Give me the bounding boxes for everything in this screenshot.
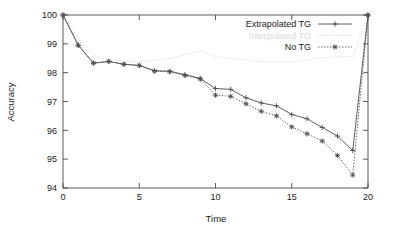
y-axis-title: Accuracy [5, 82, 16, 121]
x-tick-label: 15 [287, 192, 297, 202]
legend-label-interpolated-tg: Interpolated TG [249, 31, 311, 41]
legend-label-extrapolated-tg: Extrapolated TG [246, 19, 311, 29]
series-no-tg [60, 12, 370, 177]
plot-canvas: 949596979899100 05101520 Extrapolated TG… [0, 0, 395, 232]
x-axis-title: Time [206, 213, 227, 224]
x-tick-label: 5 [137, 192, 142, 202]
x-tick-label: 20 [363, 192, 373, 202]
data-series-group [60, 12, 370, 177]
chart-legend: Extrapolated TGInterpolated TGNo TG [246, 19, 352, 52]
legend-marker-plus-icon [332, 21, 337, 26]
y-tick-label: 94 [47, 183, 57, 193]
series-interpolated-tg [63, 15, 368, 62]
y-tick-label: 97 [47, 97, 57, 107]
plot-frame [63, 15, 368, 188]
y-tick-label: 100 [42, 10, 57, 20]
x-axis-ticks: 05101520 [60, 15, 373, 202]
legend-marker-star-icon [332, 44, 337, 49]
y-tick-label: 99 [47, 39, 57, 49]
x-tick-label: 0 [60, 192, 65, 202]
x-tick-label: 10 [210, 192, 220, 202]
y-tick-label: 98 [47, 68, 57, 78]
y-tick-label: 96 [47, 126, 57, 136]
y-axis-ticks: 949596979899100 [42, 10, 368, 193]
y-tick-label: 95 [47, 154, 57, 164]
accuracy-vs-time-chart: 949596979899100 05101520 Extrapolated TG… [0, 0, 395, 232]
series-extrapolated-tg [60, 12, 370, 153]
legend-label-no-tg: No TG [285, 42, 311, 52]
